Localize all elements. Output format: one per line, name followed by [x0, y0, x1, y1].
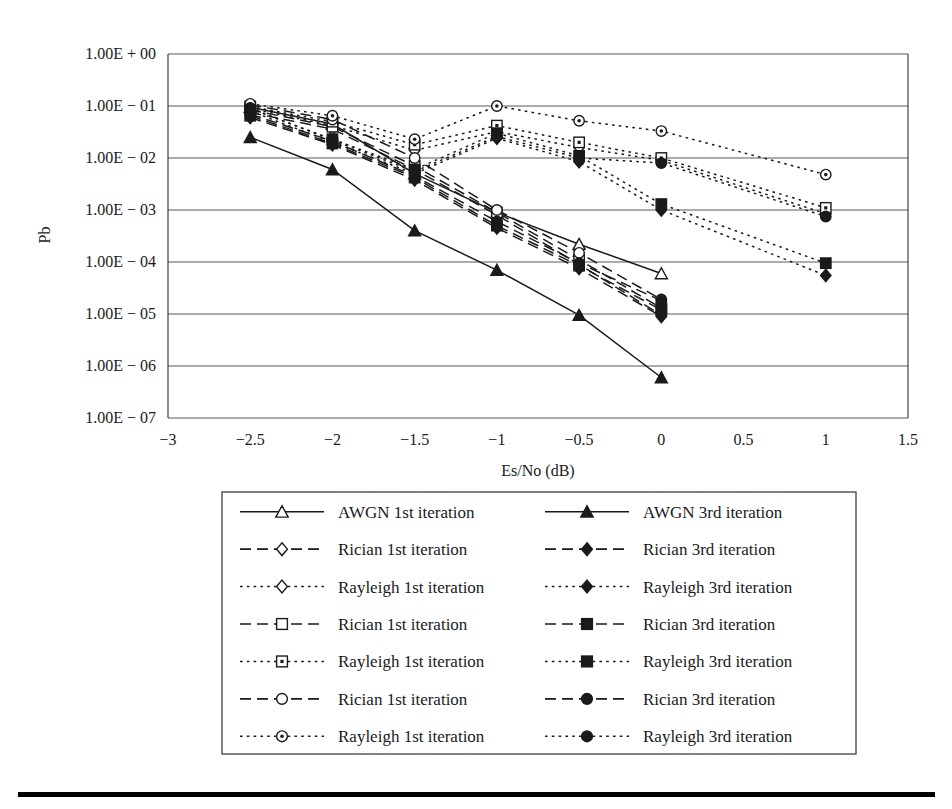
marker-circle-filled: [492, 216, 502, 226]
marker-circle-open: [492, 205, 502, 215]
marker-inner-dot: [280, 660, 283, 663]
y-tick-label: 1.00E − 05: [85, 305, 156, 322]
x-tick-label: 0.5: [734, 431, 754, 448]
legend-label: Rician 1st iteration: [338, 540, 468, 559]
marker-circle-filled: [656, 158, 666, 168]
x-tick-label: −3: [159, 431, 176, 448]
marker-circle-open: [409, 153, 419, 163]
marker-inner-dot: [824, 206, 827, 209]
marker-inner-dot: [413, 137, 417, 141]
legend-label: Rician 1st iteration: [338, 615, 468, 634]
series-line: [250, 110, 661, 308]
marker-circle-open: [277, 693, 288, 704]
y-axis-label: Pb: [36, 227, 53, 244]
marker-circle-filled: [409, 166, 419, 176]
y-tick-labels: 1.00E + 001.00E − 011.00E − 021.00E − 03…: [85, 45, 156, 426]
y-tick-label: 1.00E − 07: [85, 409, 156, 426]
marker-square-open: [277, 619, 288, 630]
y-tick-label: 1.00E − 04: [85, 253, 156, 270]
y-tick-label: 1.00E − 06: [85, 357, 156, 374]
marker-triangle-filled: [409, 225, 421, 236]
series-line: [250, 116, 661, 310]
marker-circle-filled: [574, 153, 584, 163]
marker-square-filled: [821, 258, 831, 268]
legend-label: AWGN 1st iteration: [338, 503, 475, 522]
series-line: [250, 107, 661, 273]
marker-diamond-filled: [821, 269, 831, 281]
marker-square-filled: [656, 199, 666, 209]
marker-circle-filled: [492, 131, 502, 141]
x-tick-label: −1.5: [400, 431, 429, 448]
legend: AWGN 1st iterationAWGN 3rd iterationRici…: [222, 492, 856, 754]
legend-label: Rician 1st iteration: [338, 690, 468, 709]
marker-inner-dot: [824, 173, 828, 177]
series-rician-3rd-iteration-diamond-: [245, 111, 667, 322]
legend-label: Rayleigh 3rd iteration: [643, 578, 793, 597]
x-tick-label: −0.5: [565, 431, 594, 448]
x-tick-label: −1: [488, 431, 505, 448]
marker-circle-filled: [574, 258, 584, 268]
marker-triangle-filled: [491, 264, 503, 275]
marker-inner-dot: [495, 104, 499, 108]
y-tick-label: 1.00E + 00: [85, 45, 156, 62]
marker-circle-open: [574, 248, 584, 258]
marker-circle-filled: [245, 103, 255, 113]
marker-inner-dot: [495, 124, 498, 127]
marker-triangle-filled: [573, 309, 585, 320]
legend-label: Rician 3rd iteration: [643, 540, 776, 559]
marker-inner-dot: [577, 119, 581, 123]
legend-label: Rayleigh 1st iteration: [338, 652, 485, 671]
series-line: [250, 113, 661, 316]
marker-circle-filled: [821, 211, 831, 221]
y-tick-label: 1.00E − 03: [85, 201, 156, 218]
marker-triangle-open: [655, 268, 667, 279]
legend-label: Rayleigh 3rd iteration: [643, 652, 793, 671]
bottom-divider-rule: [18, 792, 935, 797]
marker-square-filled: [582, 619, 593, 630]
series-line: [250, 118, 661, 317]
legend-label: Rayleigh 1st iteration: [338, 727, 485, 746]
marker-circle-filled: [582, 731, 593, 742]
legend-label: Rayleigh 3rd iteration: [643, 727, 793, 746]
marker-circle-filled: [656, 296, 666, 306]
legend-label: AWGN 3rd iteration: [643, 503, 783, 522]
x-tick-label: −2.5: [236, 431, 265, 448]
series-rician-1st-iteration-diamond-: [245, 106, 667, 321]
x-tick-label: 1: [822, 431, 830, 448]
series-rician-3rd-iteration-circle-: [245, 109, 667, 306]
y-tick-label: 1.00E − 01: [85, 97, 156, 114]
figure-root: 1.00E + 001.00E − 011.00E − 021.00E − 03…: [0, 0, 952, 809]
x-tick-label: 0: [657, 431, 665, 448]
y-tick-label: 1.00E − 02: [85, 149, 156, 166]
x-tick-label: −2: [324, 431, 341, 448]
marker-inner-dot: [280, 734, 284, 738]
legend-label: Rician 3rd iteration: [643, 690, 776, 709]
legend-label: Rician 3rd iteration: [643, 615, 776, 634]
x-tick-label: 1.5: [898, 431, 918, 448]
x-tick-labels: −3−2.5−2−1.5−1−0.500.511.5: [159, 431, 918, 448]
series-line: [250, 114, 661, 301]
marker-circle-filled: [582, 693, 593, 704]
marker-circle-filled: [327, 135, 337, 145]
chart-series-group: [244, 99, 831, 383]
marker-triangle-filled: [326, 164, 338, 175]
marker-triangle-filled: [244, 132, 256, 143]
series-awgn-3rd-iteration: [244, 132, 667, 383]
marker-inner-dot: [578, 141, 581, 144]
x-axis-label: Es/No (dB): [501, 462, 574, 480]
marker-inner-dot: [660, 129, 664, 133]
marker-triangle-filled: [655, 372, 667, 383]
legend-label: Rayleigh 1st iteration: [338, 578, 485, 597]
marker-square-filled: [582, 656, 593, 667]
marker-inner-dot: [331, 114, 335, 118]
